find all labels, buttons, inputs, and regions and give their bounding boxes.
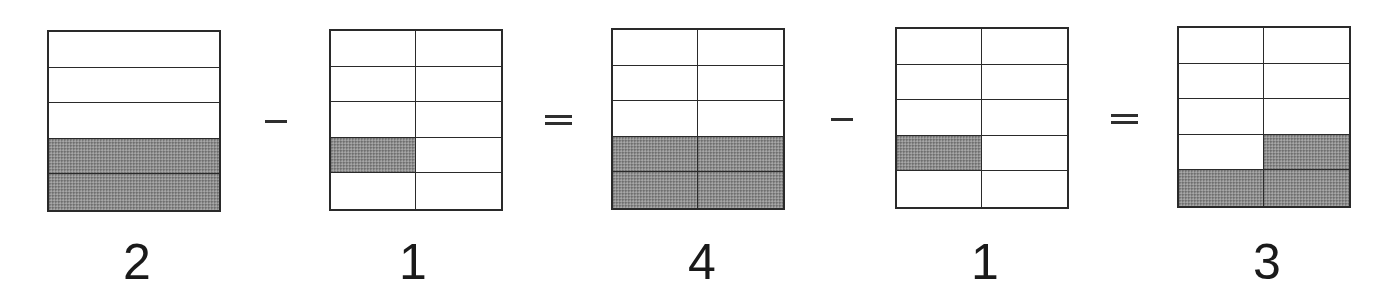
empty-cell — [897, 65, 982, 101]
empty-cell — [982, 65, 1067, 101]
minus-sign — [265, 120, 287, 132]
empty-cell — [613, 66, 698, 102]
area-model-2 — [329, 29, 503, 211]
count-label-1: 2 — [87, 236, 187, 287]
empty-cell — [698, 101, 783, 137]
count-label-2: 1 — [363, 236, 463, 287]
empty-cell — [982, 29, 1067, 65]
empty-cell — [331, 173, 416, 209]
shaded-cell — [613, 172, 698, 208]
minus-sign — [831, 118, 853, 130]
empty-cell — [1264, 99, 1349, 135]
area-model-5 — [1177, 26, 1351, 208]
empty-cell — [49, 32, 219, 68]
shaded-cell — [49, 139, 219, 175]
empty-cell — [698, 30, 783, 66]
area-model-4 — [895, 27, 1069, 209]
area-model-1 — [47, 30, 221, 212]
empty-cell — [982, 136, 1067, 172]
empty-cell — [897, 100, 982, 136]
count-label-4: 1 — [935, 236, 1035, 287]
empty-cell — [613, 30, 698, 66]
equals-bar — [1111, 114, 1138, 117]
empty-cell — [416, 173, 501, 209]
shaded-cell — [698, 137, 783, 173]
shaded-cell — [49, 174, 219, 210]
shaded-cell — [331, 138, 416, 174]
empty-cell — [416, 102, 501, 138]
empty-cell — [698, 66, 783, 102]
empty-cell — [897, 29, 982, 65]
empty-cell — [331, 31, 416, 67]
equals-bar — [545, 122, 572, 125]
empty-cell — [331, 102, 416, 138]
count-label-3: 4 — [652, 236, 752, 287]
empty-cell — [1179, 135, 1264, 171]
empty-cell — [1179, 64, 1264, 100]
empty-cell — [1264, 28, 1349, 64]
shaded-cell — [613, 137, 698, 173]
shaded-cell — [1264, 170, 1349, 206]
empty-cell — [982, 171, 1067, 207]
minus-bar — [265, 120, 287, 123]
empty-cell — [416, 67, 501, 103]
empty-cell — [416, 138, 501, 174]
empty-cell — [49, 103, 219, 139]
area-model-3 — [611, 28, 785, 210]
shaded-cell — [698, 172, 783, 208]
empty-cell — [613, 101, 698, 137]
empty-cell — [982, 100, 1067, 136]
empty-cell — [1179, 99, 1264, 135]
empty-cell — [331, 67, 416, 103]
shaded-cell — [1179, 170, 1264, 206]
equals-sign — [1111, 114, 1138, 126]
shaded-cell — [1264, 135, 1349, 171]
empty-cell — [416, 31, 501, 67]
count-label-5: 3 — [1217, 236, 1317, 287]
empty-cell — [897, 171, 982, 207]
equals-bar — [545, 115, 572, 118]
empty-cell — [1264, 64, 1349, 100]
equals-sign — [545, 115, 572, 127]
empty-cell — [49, 68, 219, 104]
empty-cell — [1179, 28, 1264, 64]
shaded-cell — [897, 136, 982, 172]
minus-bar — [831, 118, 853, 121]
equals-bar — [1111, 121, 1138, 124]
